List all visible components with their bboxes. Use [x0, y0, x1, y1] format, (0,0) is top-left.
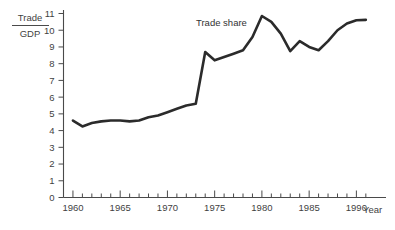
- y-tick-label: 10: [44, 25, 55, 36]
- y-axis-label-numerator: Trade: [18, 12, 42, 23]
- y-tick-label: 11: [45, 8, 55, 19]
- y-tick-label: 4: [49, 125, 54, 136]
- trade-share-line: [73, 16, 366, 126]
- y-tick-label: 0: [49, 192, 54, 203]
- x-tick-label: 1980: [251, 202, 272, 213]
- y-tick-label: 1: [49, 175, 54, 186]
- x-tick-label: 1965: [110, 202, 131, 213]
- trade-share-chart: Trade GDP 01234567891011 196019651970197…: [0, 0, 395, 230]
- x-tick-label: 1975: [204, 202, 225, 213]
- y-tick-label: 6: [49, 92, 54, 103]
- x-tick-label: 1985: [299, 202, 320, 213]
- y-axis-ticks: 01234567891011: [44, 8, 64, 203]
- y-tick-label: 7: [49, 75, 54, 86]
- chart-canvas: Trade GDP 01234567891011 196019651970197…: [0, 0, 395, 230]
- x-axis-title: Year: [363, 204, 382, 215]
- y-tick-label: 5: [49, 108, 54, 119]
- y-tick-label: 3: [49, 142, 54, 153]
- x-axis-ticks: 1960196519701975198019851990: [62, 191, 367, 213]
- series-annotation-label: Trade share: [196, 17, 247, 28]
- y-tick-label: 8: [49, 58, 54, 69]
- y-axis-label-denominator: GDP: [20, 28, 41, 39]
- x-tick-label: 1970: [157, 202, 178, 213]
- y-tick-label: 2: [49, 158, 54, 169]
- y-tick-label: 9: [49, 41, 54, 52]
- x-tick-label: 1960: [62, 202, 83, 213]
